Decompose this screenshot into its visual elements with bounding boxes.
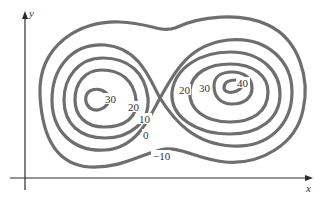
label-left-20: 20 — [128, 101, 140, 113]
label-left-10: 10 — [139, 113, 151, 125]
label-right-30: 30 — [199, 82, 211, 94]
y-axis-label: y — [28, 7, 34, 19]
contour-plot: y x 30 20 10 0 −10 20 30 40 — [0, 0, 323, 201]
x-axis-label: x — [305, 182, 311, 194]
label-right-40: 40 — [237, 77, 249, 89]
label-zero: 0 — [143, 129, 149, 141]
label-right-20: 20 — [179, 84, 191, 96]
label-neg10: −10 — [153, 150, 171, 162]
y-axis-arrow-icon — [22, 11, 28, 19]
x-axis-arrow-icon — [305, 175, 313, 181]
label-left-30: 30 — [105, 93, 117, 105]
